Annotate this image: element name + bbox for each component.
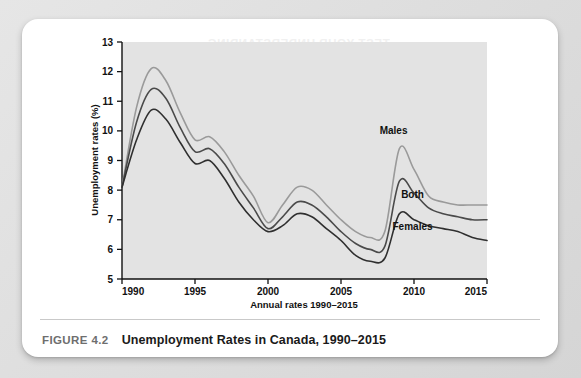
x-tick-label: 2000 bbox=[257, 286, 280, 297]
plot-background bbox=[122, 42, 487, 279]
figure-card: TEST YOUR UNDERSTANDING of unemployment … bbox=[22, 19, 558, 357]
y-axis-ticks: 5678910111213 bbox=[102, 37, 122, 285]
series-label-males: Males bbox=[380, 125, 408, 136]
y-axis-title: Unemployment rates (%) bbox=[89, 104, 100, 215]
y-tick-label: 12 bbox=[102, 66, 114, 77]
caption-divider bbox=[40, 319, 540, 320]
chart-plot-area: 5678910111213 199019952000200520102015 M… bbox=[22, 19, 558, 319]
series-label-both: Both bbox=[401, 189, 424, 200]
y-tick-label: 7 bbox=[107, 214, 113, 225]
caption-figure-number: FIGURE 4.2 bbox=[42, 334, 109, 346]
x-tick-label: 1995 bbox=[184, 286, 207, 297]
unemployment-line-chart: 5678910111213 199019952000200520102015 M… bbox=[22, 19, 558, 319]
y-tick-label: 11 bbox=[102, 96, 113, 107]
x-tick-label: 2005 bbox=[330, 286, 353, 297]
page-root: TEST YOUR UNDERSTANDING of unemployment … bbox=[0, 0, 581, 378]
x-tick-label: 2015 bbox=[465, 286, 488, 297]
y-tick-label: 5 bbox=[107, 274, 113, 285]
y-tick-label: 13 bbox=[102, 37, 114, 48]
x-tick-label: 2010 bbox=[403, 286, 426, 297]
caption-title: Unemployment Rates in Canada, 1990–2015 bbox=[122, 333, 386, 347]
x-axis-ticks: 199019952000200520102015 bbox=[122, 279, 487, 297]
y-tick-label: 6 bbox=[107, 244, 113, 255]
figure-caption: FIGURE 4.2 Unemployment Rates in Canada,… bbox=[42, 327, 542, 353]
y-tick-label: 10 bbox=[102, 125, 114, 136]
series-label-females: Females bbox=[393, 221, 433, 232]
x-tick-label: 1990 bbox=[122, 286, 145, 297]
y-tick-label: 8 bbox=[107, 185, 113, 196]
y-tick-label: 9 bbox=[107, 155, 113, 166]
x-axis-title: Annual rates 1990–2015 bbox=[250, 299, 358, 310]
